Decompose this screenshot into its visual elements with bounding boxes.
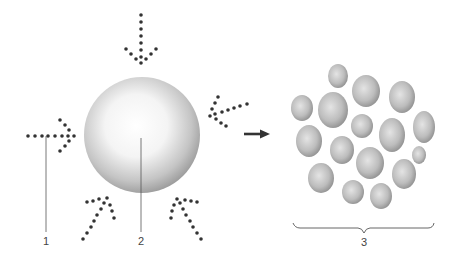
droplet-cluster bbox=[291, 64, 435, 209]
label-2: 2 bbox=[138, 235, 144, 247]
dotted-arrow-right bbox=[208, 95, 249, 128]
large-sphere bbox=[84, 77, 200, 193]
dotted-arrow-bottom-left bbox=[81, 196, 116, 241]
diagram-canvas bbox=[0, 0, 450, 265]
transition-arrow bbox=[244, 130, 270, 139]
label-1: 1 bbox=[43, 235, 49, 247]
dotted-arrow-top bbox=[124, 13, 158, 65]
label-3: 3 bbox=[361, 236, 367, 248]
brace bbox=[293, 223, 434, 233]
dotted-arrow-left bbox=[26, 118, 76, 153]
dotted-arrow-bottom-right bbox=[169, 197, 203, 241]
